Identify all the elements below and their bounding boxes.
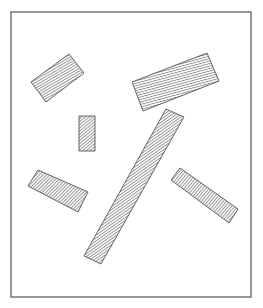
long-diagonal-bar: [84, 109, 184, 264]
shapes-group: [28, 53, 238, 264]
upper-left-bar: [31, 54, 84, 102]
lower-left-bar: [28, 170, 88, 212]
hatched-bars-diagram: [0, 0, 263, 308]
diagram-canvas: [0, 0, 263, 308]
upper-right-bar: [132, 53, 219, 111]
figure-frame: [11, 12, 251, 297]
small-vertical-bar: [79, 116, 95, 151]
lower-right-bar: [171, 168, 238, 223]
